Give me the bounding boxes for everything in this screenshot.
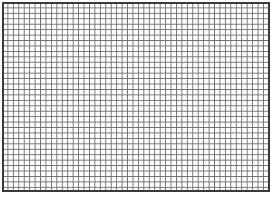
screenshot-canvas: [0, 0, 278, 201]
graph-paper-grid: [2, 2, 270, 192]
